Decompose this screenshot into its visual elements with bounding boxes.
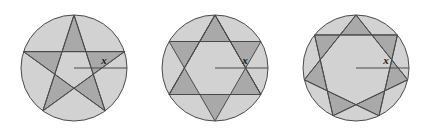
figure-three-star-circles: xxx	[0, 0, 423, 136]
radius-label-x-3: x	[382, 54, 389, 66]
six-pointed-star-in-circle: x	[162, 15, 268, 121]
five-pointed-star-in-circle: x	[21, 15, 127, 121]
seven-pointed-star-in-circle: x	[303, 15, 409, 121]
radius-label-x-2: x	[241, 54, 248, 66]
diagram-canvas: xxx	[0, 0, 423, 136]
radius-label-x-1: x	[100, 54, 107, 66]
